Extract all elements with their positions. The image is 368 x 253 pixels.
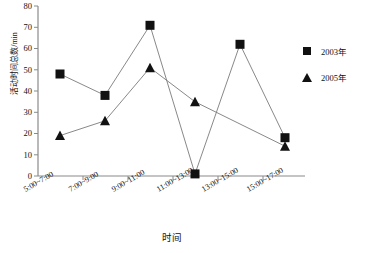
chart-legend: 2003年 2005年 — [300, 38, 347, 90]
legend-item-2003: 2003年 — [300, 38, 347, 64]
series-line-2003 — [60, 25, 285, 174]
legend-item-2005: 2005年 — [300, 64, 347, 90]
chart-figure: 活动时间总数/min 80 70 60 50 40 30 20 10 0 — [0, 0, 368, 253]
legend-label-2003: 2003年 — [321, 45, 347, 57]
series-line-2005 — [60, 68, 285, 147]
square-marker-icon — [300, 44, 314, 58]
legend-label-2005: 2005年 — [321, 71, 347, 83]
x-axis-title: 时间 — [38, 230, 305, 244]
triangle-marker-icon — [300, 70, 314, 84]
